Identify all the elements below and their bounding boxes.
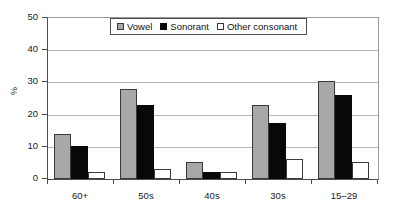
legend-label-vowel: Vowel: [127, 22, 152, 32]
y-tick-label-30: 30: [8, 76, 38, 86]
x-tick-label-3: 30s: [245, 190, 311, 201]
sonorant-swatch-icon: [160, 23, 167, 30]
x-tick-4: [311, 179, 312, 184]
other-consonant-swatch-icon: [217, 23, 224, 30]
x-tick-label-4: 15–29: [311, 190, 377, 201]
y-tick-30: [42, 81, 47, 82]
y-tick-label-10: 10: [8, 141, 38, 151]
bar-other-consonant-60+: [88, 172, 105, 179]
x-tick-label-0: 60+: [47, 190, 113, 201]
bar-vowel-1529: [318, 81, 335, 179]
x-tick-2: [179, 179, 180, 184]
x-tick-1: [113, 179, 114, 184]
y-tick-20: [42, 114, 47, 115]
y-tick-50: [42, 17, 47, 18]
bar-sonorant-1529: [335, 95, 352, 179]
y-tick-40: [42, 49, 47, 50]
bar-sonorant-50s: [137, 105, 154, 179]
x-tick-label-1: 50s: [113, 190, 179, 201]
bar-other-consonant-30s: [286, 159, 303, 179]
bar-sonorant-60+: [71, 146, 88, 179]
y-tick-label-20: 20: [8, 109, 38, 119]
bar-vowel-60+: [54, 134, 71, 179]
plot-area: [47, 17, 379, 180]
bar-other-consonant-50s: [154, 169, 171, 179]
grouped-bar-chart: % 50403020100 60+50s40s30s15–29 Vowel So…: [0, 0, 395, 216]
y-tick-10: [42, 146, 47, 147]
y-tick-label-40: 40: [8, 44, 38, 54]
y-tick-label-50: 50: [8, 12, 38, 22]
x-tick-3: [245, 179, 246, 184]
legend-label-sonorant: Sonorant: [170, 22, 209, 32]
bar-sonorant-40s: [203, 172, 220, 179]
legend-label-other-consonant: Other consonant: [227, 22, 297, 32]
bar-sonorant-30s: [269, 123, 286, 179]
legend-item-sonorant: Sonorant: [160, 22, 209, 32]
vowel-swatch-icon: [117, 23, 124, 30]
x-tick-0: [47, 179, 48, 184]
bar-vowel-40s: [186, 162, 203, 179]
y-tick-label-0: 0: [8, 173, 38, 183]
x-tick-label-2: 40s: [179, 190, 245, 201]
bar-other-consonant-1529: [352, 162, 369, 179]
bar-vowel-30s: [252, 105, 269, 179]
legend-item-vowel: Vowel: [117, 22, 152, 32]
legend-item-other-consonant: Other consonant: [217, 22, 297, 32]
bar-other-consonant-40s: [220, 172, 237, 179]
gridline-40: [48, 50, 378, 51]
x-tick-5: [377, 179, 378, 184]
chart-legend: Vowel Sonorant Other consonant: [110, 18, 307, 35]
bar-vowel-50s: [120, 89, 137, 179]
